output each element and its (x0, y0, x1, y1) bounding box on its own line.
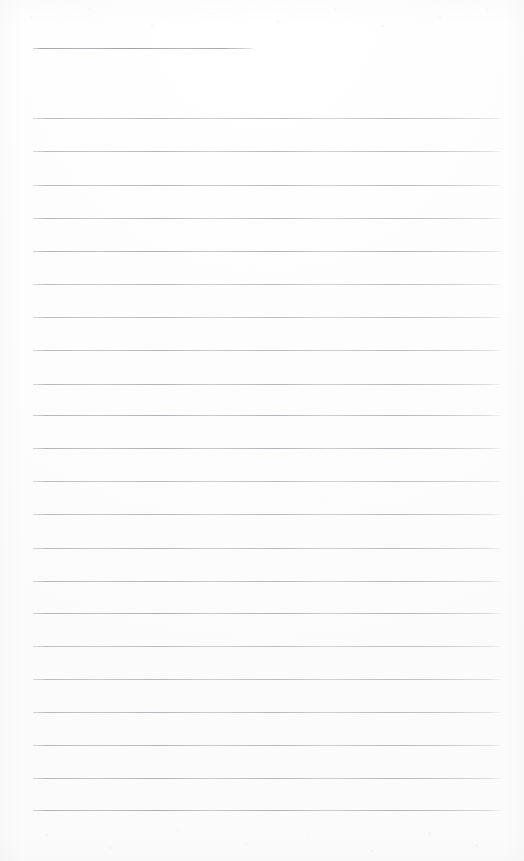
ruled-line (33, 745, 500, 746)
ruled-line (33, 448, 500, 449)
ruled-line (33, 251, 500, 252)
ruled-line (33, 185, 500, 186)
ruled-line (33, 810, 500, 811)
ruled-line (33, 118, 500, 119)
ruled-line (33, 317, 500, 318)
ruled-line (33, 384, 500, 385)
ruled-line (33, 679, 500, 680)
ruled-line (33, 218, 500, 219)
ruled-line (33, 581, 500, 582)
ruled-line (33, 712, 500, 713)
ruled-line (33, 151, 500, 152)
ruled-line (33, 284, 500, 285)
ruled-line (33, 778, 500, 779)
scanned-page (0, 0, 524, 861)
ruled-line (33, 514, 500, 515)
ruled-line (33, 481, 500, 482)
ruled-line (33, 548, 500, 549)
ruled-line (33, 350, 500, 351)
ruled-line (33, 613, 500, 614)
ruled-lines-group (0, 0, 524, 861)
header-blank-rule (33, 48, 253, 49)
ruled-line (33, 415, 500, 416)
ruled-line (33, 646, 500, 647)
